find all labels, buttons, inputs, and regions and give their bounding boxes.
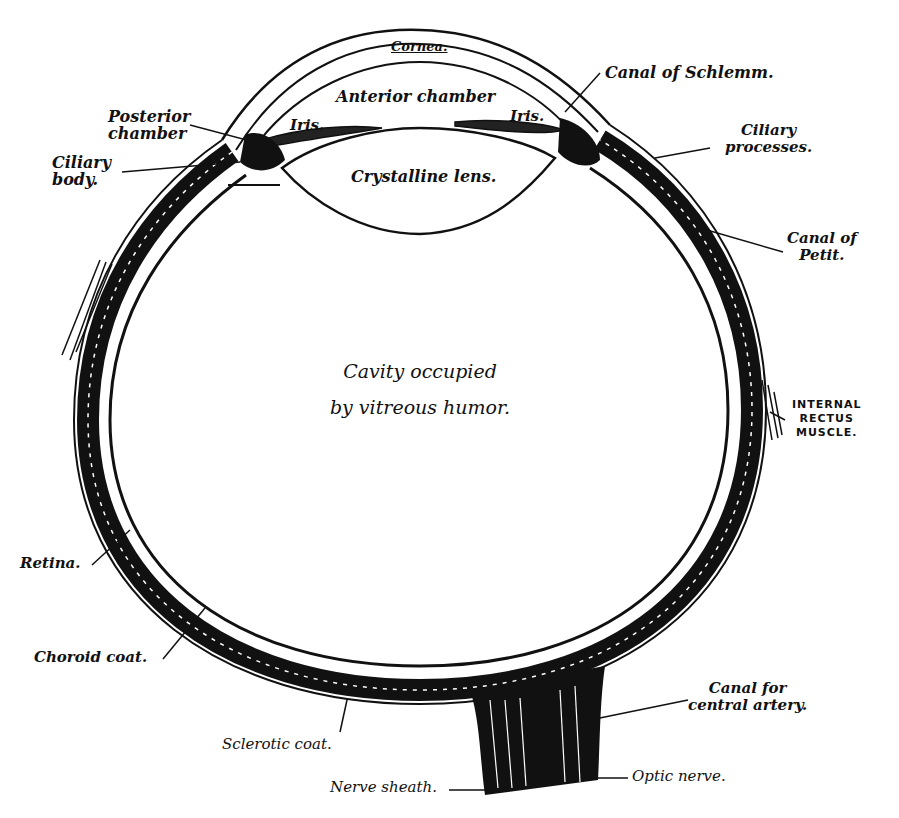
label-iris-right: Iris.: [510, 108, 544, 125]
label-vitreous-line1: Cavity occupied: [300, 360, 540, 382]
label-internal-rectus-muscle: INTERNAL RECTUS MUSCLE.: [792, 398, 862, 440]
label-canal-of-schlemm: Canal of Schlemm.: [605, 64, 774, 81]
label-canal-for-central-artery: Canal for central artery.: [688, 680, 807, 714]
label-crystalline-lens: Crystalline lens.: [351, 168, 496, 185]
label-posterior-chamber-line1: Posterior: [108, 108, 190, 125]
label-ciliary-body: Ciliary body.: [52, 154, 111, 188]
label-ciliary-body-line2: body.: [52, 171, 111, 188]
label-canal-of-petit-line1: Canal of: [787, 230, 857, 247]
label-internal-rectus-line2: RECTUS: [792, 412, 862, 426]
label-cornea: Cornea.: [391, 38, 448, 55]
label-canal-of-petit: Canal of Petit.: [787, 230, 857, 264]
label-ciliary-processes: Ciliary processes.: [725, 122, 812, 156]
label-canal-of-petit-line2: Petit.: [787, 247, 857, 264]
label-ciliary-body-line1: Ciliary: [52, 154, 111, 171]
label-nerve-sheath: Nerve sheath.: [330, 779, 437, 796]
label-anterior-chamber: Anterior chamber: [336, 88, 495, 105]
label-internal-rectus-line3: MUSCLE.: [792, 426, 862, 440]
label-iris-left: Iris.: [290, 117, 324, 134]
label-sclerotic-coat: Sclerotic coat.: [222, 736, 332, 753]
label-vitreous-line2: by vitreous humor.: [300, 396, 540, 418]
label-canal-central-artery-line1: Canal for: [688, 680, 807, 697]
label-optic-nerve: Optic nerve.: [632, 768, 726, 785]
label-ciliary-processes-line1: Ciliary: [725, 122, 812, 139]
label-vitreous-cavity: Cavity occupied by vitreous humor.: [300, 360, 540, 418]
label-retina: Retina.: [20, 555, 80, 572]
label-internal-rectus-line1: INTERNAL: [792, 398, 862, 412]
label-canal-central-artery-line2: central artery.: [688, 697, 807, 714]
label-posterior-chamber: Posterior chamber: [108, 108, 190, 142]
eye-anatomy-diagram: Cornea. Anterior chamber Iris. Iris. Can…: [0, 0, 899, 818]
label-choroid-coat: Choroid coat.: [34, 649, 147, 666]
label-ciliary-processes-line2: processes.: [725, 139, 812, 156]
label-posterior-chamber-line2: chamber: [108, 125, 190, 142]
